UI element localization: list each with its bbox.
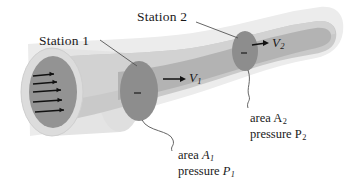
streamtube-drawing [0, 0, 345, 191]
velocity-2-subscript: 2 [280, 41, 285, 51]
area-2-line: area A2 [250, 111, 306, 127]
pressure-1-prefix: pressure [178, 164, 223, 178]
streamtube-figure: Station 1 Station 2 V1 V2 area A1 pressu… [0, 0, 345, 191]
area-2-prefix: area [250, 111, 273, 125]
pressure-2-subscript: 2 [302, 133, 307, 142]
pressure-2-line: pressure P2 [250, 127, 306, 143]
area-2-subscript: 2 [282, 117, 287, 126]
pressure-2-prefix: pressure [250, 127, 295, 141]
velocity-1-label: V1 [189, 71, 202, 87]
pressure-2-symbol: P [295, 127, 302, 141]
area-1-subscript: 1 [210, 154, 215, 163]
station-2-label: Station 2 [137, 9, 187, 25]
velocity-2-symbol: V [272, 35, 280, 50]
area-1-leader-line [142, 120, 173, 151]
station-2-properties: area A2 pressure P2 [250, 111, 306, 143]
area-1-symbol: A [202, 148, 210, 162]
velocity-1-symbol: V [189, 70, 197, 85]
pressure-1-line: pressure P1 [178, 164, 235, 180]
station-1-label: Station 1 [39, 33, 89, 49]
station-1-disc [120, 61, 158, 121]
inlet-face [21, 48, 83, 136]
velocity-2-label: V2 [272, 36, 285, 52]
area-1-prefix: area [178, 148, 202, 162]
pressure-1-subscript: 1 [230, 170, 235, 179]
velocity-1-subscript: 1 [197, 76, 202, 86]
area-1-line: area A1 [178, 148, 235, 164]
station-1-properties: area A1 pressure P1 [178, 148, 235, 180]
area-2-symbol: A [273, 111, 282, 125]
